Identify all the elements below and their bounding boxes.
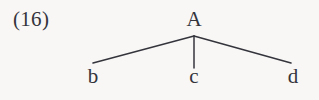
tree-node-leaf-d: d bbox=[288, 65, 299, 87]
branch-to-b-line bbox=[93, 36, 194, 63]
tree-node-leaf-b: b bbox=[88, 65, 99, 87]
tree-branch-lines bbox=[0, 0, 319, 100]
branch-to-d-line bbox=[194, 36, 291, 63]
syntax-tree-figure: (16) A b c d bbox=[0, 0, 319, 100]
tree-node-root: A bbox=[186, 8, 201, 30]
tree-node-leaf-c: c bbox=[189, 65, 198, 87]
